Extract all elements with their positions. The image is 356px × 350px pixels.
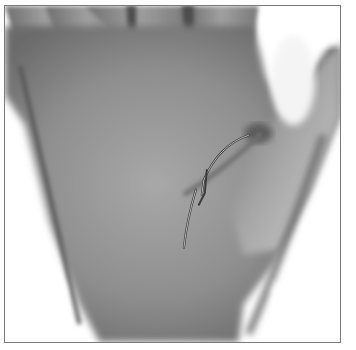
palm-photo-frame xyxy=(4,5,341,343)
palm-photo xyxy=(5,6,340,342)
